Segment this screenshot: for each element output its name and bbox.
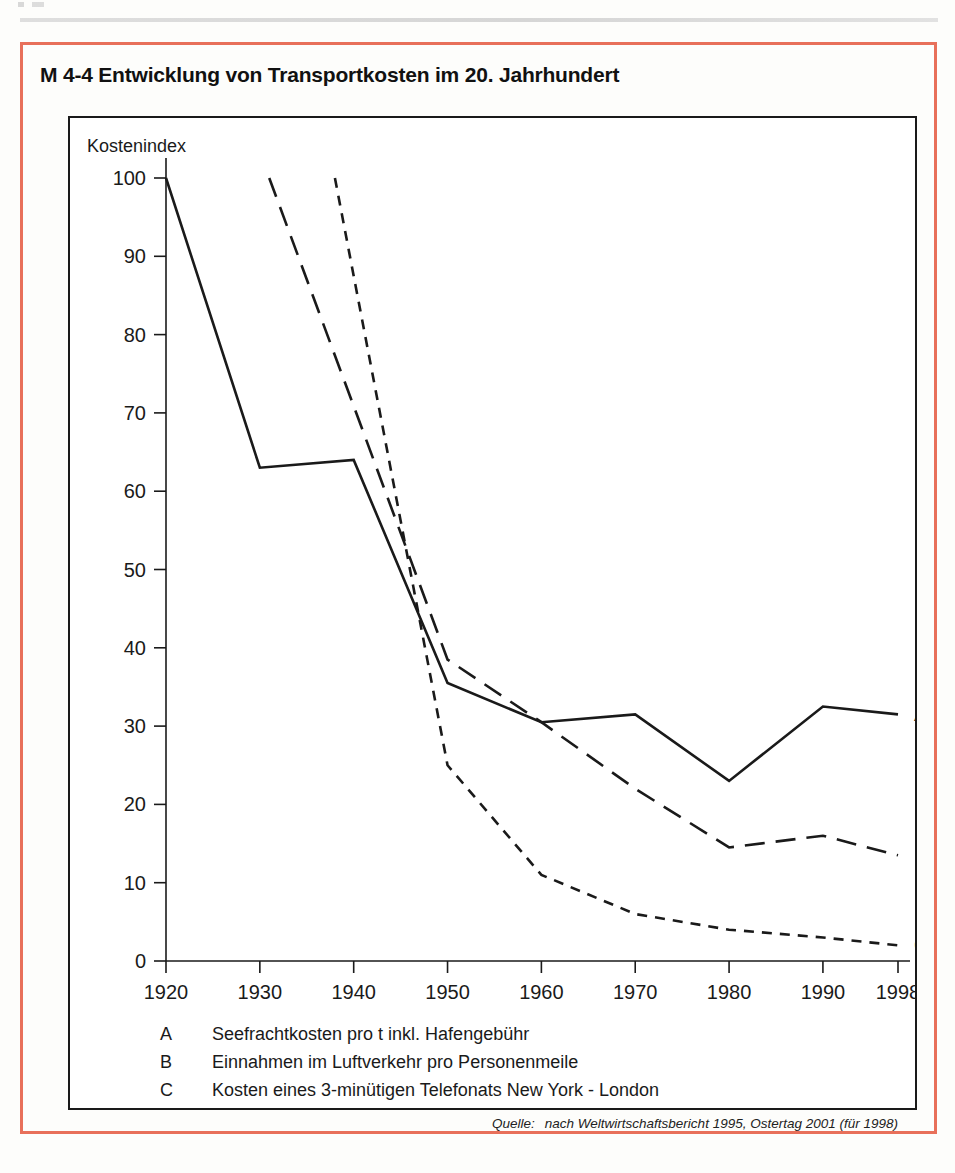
x-axis-tick-label: 1940 (331, 981, 376, 1003)
x-axis-tick-label: 1970 (613, 981, 658, 1003)
y-axis-tick-label: 30 (124, 715, 146, 737)
x-axis-tick-label: 1950 (425, 981, 470, 1003)
y-axis-tick-label: 60 (124, 480, 146, 502)
series-line-c (335, 178, 898, 945)
legend-item-b: B Einnahmen im Luftverkehr pro Personenm… (160, 1052, 860, 1080)
line-chart-plot: 0102030405060708090100192019301940195019… (70, 118, 915, 1108)
y-axis-tick-label: 100 (113, 167, 146, 189)
series-end-label-a: A (914, 702, 915, 725)
figure-title: M 4-4 Entwicklung von Transportkosten im… (40, 63, 619, 87)
series-line-a (166, 178, 898, 781)
x-axis-tick-label: 1980 (707, 981, 752, 1003)
series-line-b (269, 178, 898, 855)
series-end-label-b: B (914, 843, 915, 866)
y-axis-tick-label: 90 (124, 245, 146, 267)
legend-label-a: Seefrachtkosten pro t inkl. Hafengebühr (212, 1024, 529, 1045)
legend-key-c: C (160, 1080, 212, 1101)
x-axis-tick-label: 1998 (876, 981, 915, 1003)
chart-container: Kostenindex 0102030405060708090100192019… (68, 116, 917, 1110)
legend-key-b: B (160, 1052, 212, 1073)
legend-label-c: Kosten eines 3-minütigen Telefonats New … (212, 1080, 659, 1101)
source-label: Quelle: (492, 1116, 535, 1131)
series-end-label-c: C (914, 933, 915, 956)
legend-key-a: A (160, 1024, 212, 1045)
y-axis-tick-label: 20 (124, 793, 146, 815)
legend-label-b: Einnahmen im Luftverkehr pro Personenmei… (212, 1052, 578, 1073)
x-axis-tick-label: 1960 (519, 981, 564, 1003)
y-axis-tick-label: 70 (124, 402, 146, 424)
y-axis-tick-label: 50 (124, 559, 146, 581)
x-axis-tick-label: 1990 (801, 981, 846, 1003)
y-axis-tick-label: 40 (124, 637, 146, 659)
page-top-rule (20, 18, 938, 22)
x-axis-tick-label: 1920 (144, 981, 189, 1003)
y-axis-tick-label: 80 (124, 324, 146, 346)
chart-legend: A Seefrachtkosten pro t inkl. Hafengebüh… (160, 1024, 860, 1108)
x-axis-tick-label: 1930 (238, 981, 283, 1003)
page-artifact-specks (18, 2, 78, 7)
y-axis-tick-label: 10 (124, 872, 146, 894)
source-text: nach Weltwirtschaftsbericht 1995, Ostert… (545, 1116, 898, 1131)
page-canvas: M 4-4 Entwicklung von Transportkosten im… (0, 0, 955, 1173)
legend-item-c: C Kosten eines 3-minütigen Telefonats Ne… (160, 1080, 860, 1108)
figure-frame: M 4-4 Entwicklung von Transportkosten im… (20, 42, 937, 1134)
source-note: Quelle:nach Weltwirtschaftsbericht 1995,… (492, 1116, 898, 1131)
legend-item-a: A Seefrachtkosten pro t inkl. Hafengebüh… (160, 1024, 860, 1052)
y-axis-tick-label: 0 (135, 950, 146, 972)
